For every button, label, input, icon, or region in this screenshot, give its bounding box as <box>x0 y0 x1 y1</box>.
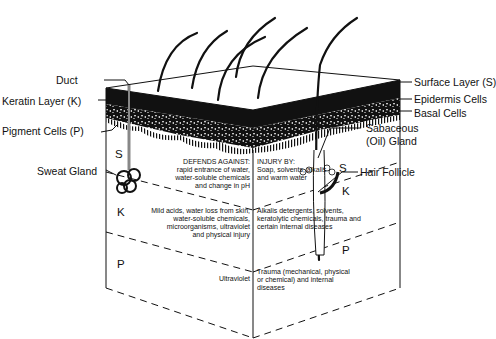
letter-front-p: P <box>117 258 125 270</box>
letter-side-p: P <box>342 244 350 256</box>
label-sebaceous-2: (Oil) Gland <box>366 135 417 147</box>
defends-k: Mild acids, water loss from skin, water-… <box>100 207 250 239</box>
label-epidermis-cells: Epidermis Cells <box>414 93 487 105</box>
defends-header: DEFENDS AGAINST: rapid entrance of water… <box>110 158 250 190</box>
label-duct: Duct <box>56 74 78 86</box>
injury-p: Trauma (mechanical, physical or chemical… <box>257 268 387 292</box>
label-sweat-gland: Sweat Gland <box>37 165 97 177</box>
label-sebaceous-1: Sabaceous <box>366 122 419 134</box>
label-basal-cells: Basal Cells <box>414 107 467 119</box>
defends-p: Ultraviolet <box>150 275 250 283</box>
letter-side-k: K <box>342 185 350 197</box>
injury-k: Alkalis detergents, solvents, keratolyti… <box>257 207 407 231</box>
label-keratin-layer: Keratin Layer (K) <box>2 95 81 107</box>
injury-header: INJURY BY: Soap, solvents, alkalis and w… <box>257 158 397 182</box>
label-pigment-cells: Pigment Cells (P) <box>2 125 84 137</box>
label-surface-layer: Surface Layer (S) <box>414 76 496 88</box>
